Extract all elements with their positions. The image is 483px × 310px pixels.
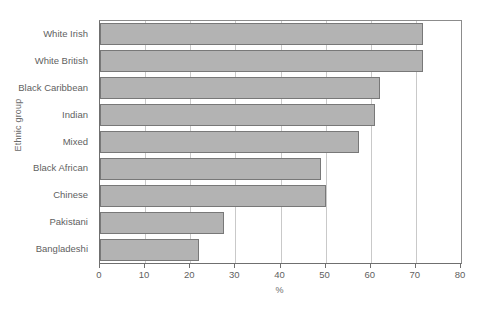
bar: [100, 158, 321, 180]
x-axis-tick-label: 0: [96, 269, 101, 280]
x-axis-tick: [280, 263, 281, 268]
category-label: White British: [0, 47, 94, 74]
x-axis-tick-label: 30: [229, 269, 240, 280]
bar-row: [100, 50, 461, 72]
category-label: White Irish: [0, 20, 94, 47]
category-label: Black African: [0, 154, 94, 181]
x-axis-tick-label: 60: [364, 269, 375, 280]
bar-row: [100, 158, 461, 180]
category-label: Chinese: [0, 181, 94, 208]
bar-series: [100, 21, 461, 263]
category-label: Mixed: [0, 128, 94, 155]
bar-row: [100, 185, 461, 207]
x-axis-tick-label: 50: [319, 269, 330, 280]
x-axis-tick: [415, 263, 416, 268]
category-label: Pakistani: [0, 208, 94, 235]
bar: [100, 239, 199, 261]
bar: [100, 131, 359, 153]
plot-area: [99, 20, 462, 264]
bar: [100, 104, 375, 126]
bar-row: [100, 212, 461, 234]
x-axis-title: %: [99, 285, 460, 295]
x-axis-tick: [325, 263, 326, 268]
bar: [100, 185, 326, 207]
x-axis-tick-label: 10: [139, 269, 150, 280]
category-label: Indian: [0, 101, 94, 128]
bar: [100, 212, 224, 234]
bar-row: [100, 239, 461, 261]
bar-row: [100, 77, 461, 99]
x-axis-tick-label: 40: [274, 269, 285, 280]
bar: [100, 23, 423, 45]
x-axis-tick-label: 70: [410, 269, 421, 280]
bar-row: [100, 23, 461, 45]
x-axis-tick-label: 80: [455, 269, 466, 280]
x-axis-tick: [234, 263, 235, 268]
x-axis-tick-labels: 01020304050607080: [99, 269, 460, 283]
category-label: Black Caribbean: [0, 74, 94, 101]
x-axis-tick: [189, 263, 190, 268]
bar: [100, 77, 380, 99]
x-axis-tick-label: 20: [184, 269, 195, 280]
x-axis-tick: [99, 263, 100, 268]
bar-row: [100, 131, 461, 153]
category-axis-labels: White Irish White British Black Caribbea…: [0, 20, 94, 262]
bar-chart: Ethnic group White Irish White British B…: [0, 0, 483, 310]
x-axis-tick: [460, 263, 461, 268]
x-axis-tick: [370, 263, 371, 268]
category-label: Bangladeshi: [0, 235, 94, 262]
bar-row: [100, 104, 461, 126]
x-axis-tick: [144, 263, 145, 268]
bar: [100, 50, 423, 72]
